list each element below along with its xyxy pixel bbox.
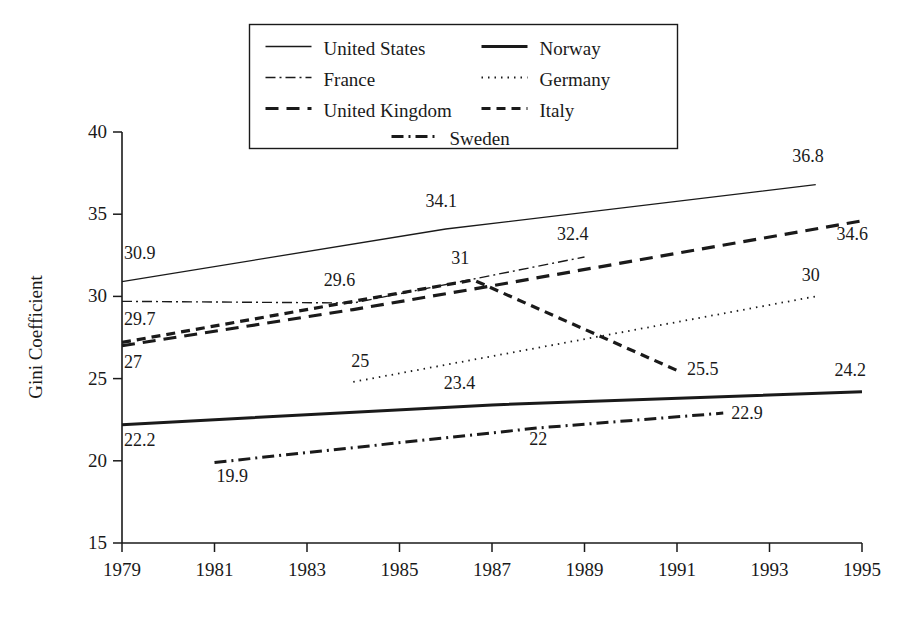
data-label-24.2: 24.2 <box>835 360 867 380</box>
series-line-united-kingdom <box>122 221 862 346</box>
legend-label-italy: Italy <box>540 100 575 121</box>
data-label-22.2: 22.2 <box>124 430 156 450</box>
x-tick-label: 1983 <box>288 559 326 580</box>
y-tick-label: 25 <box>88 368 107 389</box>
data-label-25.5: 25.5 <box>687 359 719 379</box>
y-tick-label: 20 <box>88 450 107 471</box>
legend-label-united-states: United States <box>324 38 426 59</box>
x-axis-ticks: 197919811983198519871989199119931995 <box>103 543 881 580</box>
legend-entries: United StatesNorwayFranceGermanyUnited K… <box>266 38 611 149</box>
data-label-23.4: 23.4 <box>444 373 476 393</box>
data-label-27: 27 <box>124 352 142 372</box>
data-label-30.9: 30.9 <box>124 243 156 263</box>
x-tick-label: 1987 <box>473 559 511 580</box>
y-tick-label: 30 <box>88 285 107 306</box>
x-tick-label: 1981 <box>196 559 234 580</box>
data-label-32.4: 32.4 <box>557 224 589 244</box>
series-line-germany <box>353 296 816 381</box>
y-axis-ticks: 152025303540 <box>88 121 122 553</box>
axes-layer: 152025303540 197919811983198519871989199… <box>88 121 881 580</box>
data-label-30: 30 <box>802 265 820 285</box>
y-axis-title: Gini Coefficient <box>25 274 46 398</box>
gini-coefficient-line-chart: 30.934.136.829.729.632.42734.63125.52530… <box>0 0 917 618</box>
chart-legend: United StatesNorwayFranceGermanyUnited K… <box>250 25 678 149</box>
x-tick-label: 1991 <box>658 559 696 580</box>
x-tick-label: 1979 <box>103 559 141 580</box>
x-tick-label: 1985 <box>381 559 419 580</box>
series-line-sweden <box>215 413 724 462</box>
legend-label-germany: Germany <box>540 69 611 90</box>
legend-label-norway: Norway <box>540 38 602 59</box>
legend-label-france: France <box>324 69 376 90</box>
legend-label-sweden: Sweden <box>450 128 511 149</box>
y-tick-label: 15 <box>88 532 107 553</box>
data-label-22: 22 <box>529 429 547 449</box>
y-tick-label: 35 <box>88 203 107 224</box>
data-label-29.7: 29.7 <box>124 309 156 329</box>
data-label-31: 31 <box>451 248 469 268</box>
data-label-29.6: 29.6 <box>324 270 356 290</box>
chart-canvas: 30.934.136.829.729.632.42734.63125.52530… <box>0 0 917 618</box>
legend-label-united-kingdom: United Kingdom <box>324 100 452 121</box>
data-point-labels-layer: 30.934.136.829.729.632.42734.63125.52530… <box>124 146 868 486</box>
x-tick-label: 1993 <box>751 559 789 580</box>
data-label-36.8: 36.8 <box>792 146 824 166</box>
data-label-34.6: 34.6 <box>837 224 869 244</box>
data-label-19.9: 19.9 <box>217 466 249 486</box>
x-tick-label: 1995 <box>843 559 881 580</box>
data-label-25: 25 <box>351 351 369 371</box>
x-tick-label: 1989 <box>566 559 604 580</box>
data-label-34.1: 34.1 <box>425 191 457 211</box>
y-tick-label: 40 <box>88 121 107 142</box>
data-label-22.9: 22.9 <box>731 403 763 423</box>
series-line-italy <box>122 280 677 370</box>
